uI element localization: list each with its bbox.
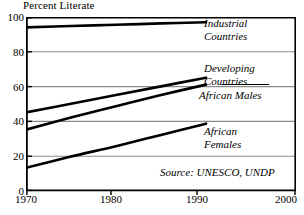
series-label-african-females-line1: African [204, 125, 241, 138]
y-tick-20: 20 [0, 151, 24, 162]
y-tick-100: 100 [0, 12, 24, 23]
x-tick-1980: 1980 [95, 194, 127, 205]
series-line-african-females [26, 124, 206, 168]
plot-area [26, 17, 296, 191]
page-title: Percent Literate [23, 0, 95, 11]
series-label-developing-line1: Developing [204, 62, 255, 75]
series-label-industrial-line1: Industrial [204, 17, 247, 30]
x-tick-1970: 1970 [10, 194, 42, 205]
series-label-african-females-line2: Females [204, 138, 241, 151]
x-tick-1990: 1990 [181, 194, 213, 205]
source-note: Source: UNESCO, UNDP [160, 166, 275, 178]
series-label-industrial-line2: Countries [204, 30, 247, 43]
series-label-industrial-countries: Industrial Countries [204, 17, 247, 42]
y-tick-60: 60 [0, 82, 24, 93]
series-label-african-males-line1: African Males [199, 89, 262, 102]
series-label-developing-line2: Countries [204, 75, 255, 88]
series-label-developing-countries: Developing Countries [204, 62, 255, 87]
series-label-african-females: African Females [204, 125, 241, 150]
chart-figure: Percent Literate 100 80 60 40 20 0 1970 … [0, 0, 304, 215]
y-tick-80: 80 [0, 47, 24, 58]
series-label-african-males: African Males [199, 89, 262, 102]
y-axis-label-group: 100 80 60 40 20 0 [0, 0, 24, 215]
data-series-group [26, 22, 206, 168]
series-line-industrial-countries [26, 22, 206, 27]
y-tick-40: 40 [0, 116, 24, 127]
x-tick-2000: 2000 [270, 194, 302, 205]
